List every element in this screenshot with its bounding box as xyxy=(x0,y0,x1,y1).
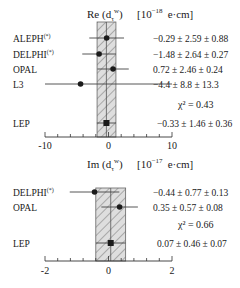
combined-value: 0.07 ± 0.46 ± 0.07 xyxy=(157,239,227,249)
measurement-value: 0.35 ± 0.57 ± 0.08 xyxy=(153,203,223,213)
unit-label: [10−17e·cm] xyxy=(137,157,193,170)
panel-title: Re (dτw) xyxy=(87,7,123,23)
x-tick-label: -2 xyxy=(41,265,49,276)
experiment-label: ALEPH(*) xyxy=(13,33,51,44)
panel-title: Im (dτw) xyxy=(87,157,123,173)
measurement-value: −1.48 ± 2.64 ± 0.27 xyxy=(153,50,228,60)
measurement-marker xyxy=(110,66,116,72)
measurement-marker xyxy=(104,35,110,41)
chi-squared-label: χ² = 0.66 xyxy=(177,219,214,230)
unit-label: [10−18e·cm] xyxy=(137,7,193,20)
im-dipole-panel: Im (dτw)[10−17e·cm]DELPHI(*)−0.44 ± 0.77… xyxy=(13,157,228,276)
x-tick-label: 0 xyxy=(106,265,111,276)
x-tick-label: 0 xyxy=(106,140,111,151)
measurement-value: −0.44 ± 0.77 ± 0.13 xyxy=(153,188,228,198)
measurement-marker xyxy=(92,189,98,195)
experiment-label: L3 xyxy=(13,80,24,90)
combined-label: LEP xyxy=(13,119,30,129)
experiment-label: DELPHI(*) xyxy=(13,187,54,198)
lep-tau-weak-dipole-figure: Re (dτw)[10−18e·cm]ALEPH(*)−0.29 ± 2.59 … xyxy=(0,0,240,288)
combined-marker xyxy=(103,120,109,126)
measurement-value: −0.29 ± 2.59 ± 0.88 xyxy=(153,34,228,44)
experiment-label: OPAL xyxy=(13,203,37,213)
re-dipole-panel: Re (dτw)[10−18e·cm]ALEPH(*)−0.29 ± 2.59 … xyxy=(13,7,232,151)
combined-label: LEP xyxy=(13,239,30,249)
x-tick-label: 10 xyxy=(167,140,177,151)
measurement-value: 0.72 ± 2.46 ± 0.24 xyxy=(153,65,223,75)
combined-value: −0.33 ± 1.46 ± 0.36 xyxy=(157,119,232,129)
measurement-value: −4.4 ± 8.8 ± 13.3 xyxy=(153,80,219,90)
measurement-marker xyxy=(96,51,102,57)
x-tick-label: 2 xyxy=(170,265,175,276)
chi-squared-label: χ² = 0.43 xyxy=(177,99,214,110)
x-tick-label: -10 xyxy=(38,140,51,151)
combined-marker xyxy=(108,240,114,246)
experiment-label: DELPHI(*) xyxy=(13,49,54,60)
experiment-label: OPAL xyxy=(13,65,37,75)
measurement-marker xyxy=(78,81,84,87)
measurement-marker xyxy=(117,204,123,210)
